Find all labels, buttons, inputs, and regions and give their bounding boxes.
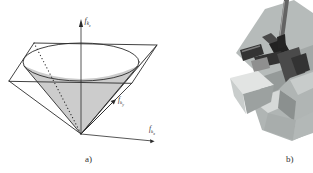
axis-z-label: fkz (85, 16, 92, 28)
friction-cone-diagram: fkz fky fkx a) (0, 0, 185, 173)
axis-z-subsub: z (88, 23, 91, 28)
axis-x-label: fkx (149, 124, 155, 136)
axis-y-subsub: y (121, 102, 124, 107)
gripper-render: b) (180, 0, 313, 173)
axis-x-line (81, 134, 151, 141)
caption-b: b) (286, 154, 294, 164)
caption-a: a) (85, 154, 92, 164)
axis-x-subsub: x (152, 131, 155, 136)
pyramid-base-square (9, 43, 157, 83)
panel-a: fkz fky fkx a) (0, 0, 185, 173)
figure: fkz fky fkx a) (0, 0, 313, 173)
axis-z-arrow-icon (79, 19, 83, 27)
panel-b: b) (180, 0, 313, 173)
axis-y-label: fky (118, 95, 124, 107)
axis-x-arrow-icon (150, 139, 155, 143)
